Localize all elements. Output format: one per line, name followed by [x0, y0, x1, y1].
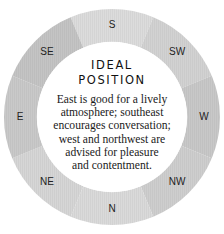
- title-line-1: IDEAL: [78, 58, 146, 73]
- title: IDEAL POSITION: [78, 58, 146, 88]
- direction-label-s: S: [109, 20, 116, 30]
- center-text: IDEAL POSITION East is good for a lively…: [37, 42, 187, 192]
- direction-label-e: E: [17, 112, 24, 122]
- description-line: and contentment.: [42, 159, 182, 172]
- description-line: East is good for a lively: [42, 93, 182, 106]
- description-line: west and northwest are: [42, 133, 182, 146]
- description-line: advised for pleasure: [42, 146, 182, 159]
- title-line-2: POSITION: [78, 73, 146, 88]
- description-line: encourages conversation;: [42, 119, 182, 132]
- direction-label-n: N: [108, 204, 115, 214]
- description: East is good for a lively atmosphere; so…: [42, 93, 182, 172]
- description-line: atmosphere; southeast: [42, 106, 182, 119]
- compass-diagram: SSWWNWNNEESE IDEAL POSITION East is good…: [0, 0, 224, 234]
- direction-label-w: W: [199, 112, 208, 122]
